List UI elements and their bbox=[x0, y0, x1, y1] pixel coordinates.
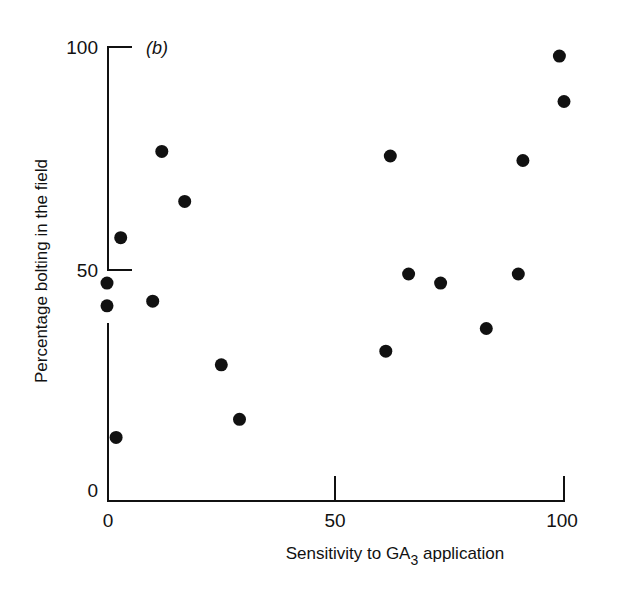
data-point bbox=[379, 345, 392, 358]
scatter-chart: 100 50 0 0 50 100 (b) Percentage bolting… bbox=[0, 0, 621, 599]
data-point bbox=[233, 413, 246, 426]
data-point bbox=[114, 231, 127, 244]
y-tick-label-50: 50 bbox=[77, 260, 98, 281]
x-axis-label-main: Sensitivity to GA bbox=[286, 544, 411, 563]
x-tick-label-50: 50 bbox=[324, 510, 345, 531]
x-axis-label-rest: application bbox=[418, 544, 504, 563]
x-axis bbox=[107, 476, 565, 501]
panel-label: (b) bbox=[146, 38, 168, 58]
data-points bbox=[101, 50, 571, 444]
data-point bbox=[101, 299, 114, 312]
y-tick-label-100: 100 bbox=[66, 37, 98, 58]
data-point bbox=[215, 358, 228, 371]
data-point bbox=[155, 145, 168, 158]
data-point bbox=[512, 268, 525, 281]
x-tick-label-0: 0 bbox=[103, 510, 114, 531]
y-axis-label: Percentage bolting in the field bbox=[32, 159, 51, 383]
data-point bbox=[558, 95, 571, 108]
x-axis-label-subscript: 3 bbox=[410, 552, 418, 568]
y-tick-label-0: 0 bbox=[87, 480, 98, 501]
data-point bbox=[178, 195, 191, 208]
x-axis-label: Sensitivity to GA3 application bbox=[286, 544, 505, 568]
data-point bbox=[434, 277, 447, 290]
data-point bbox=[146, 295, 159, 308]
data-point bbox=[384, 150, 397, 163]
data-point bbox=[110, 431, 123, 444]
data-point bbox=[553, 50, 566, 63]
data-point bbox=[402, 268, 415, 281]
data-point bbox=[101, 277, 114, 290]
data-point bbox=[480, 322, 493, 335]
x-tick-label-100: 100 bbox=[546, 510, 578, 531]
data-point bbox=[516, 154, 529, 167]
